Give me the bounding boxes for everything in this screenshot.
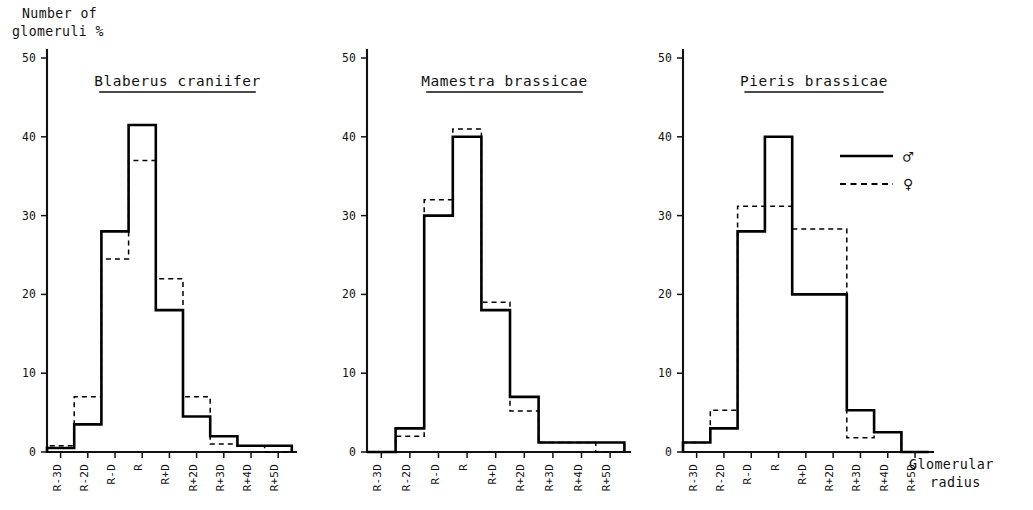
x-tick-label: R [769, 464, 782, 471]
y-tick-label: 20 [658, 287, 672, 301]
y-tick-label: 40 [22, 130, 36, 144]
x-tick-label: R+2D [823, 464, 836, 491]
histogram-series-male [367, 137, 624, 452]
x-tick-label: R+2D [514, 464, 527, 491]
panel-title: Pieris brassicae [740, 73, 888, 89]
x-axis-caption-line2: radius [930, 475, 981, 490]
x-tick-label: R+3D [543, 464, 556, 491]
x-tick-label: R+2D [187, 464, 200, 491]
x-tick-label: R-2D [400, 464, 413, 491]
x-tick-label: R [457, 464, 470, 471]
x-tick-label: R+D [796, 464, 809, 484]
y-tick-label: 50 [22, 51, 36, 65]
x-tick-label: R-3D [51, 464, 64, 491]
x-tick-label: R-2D [78, 464, 91, 491]
x-axis-caption: Glomerular radius [909, 457, 994, 490]
x-tick-label: R-D [429, 464, 442, 484]
x-tick-label: R-3D [371, 464, 384, 491]
histogram-series-female [683, 206, 929, 452]
legend-symbol-female: ♀ [903, 174, 913, 194]
legend: ♂ ♀ [840, 147, 914, 194]
axes [683, 50, 933, 452]
panel-title: Blaberus craniifer [94, 73, 261, 89]
glomeruli-distribution-figure: Number of glomeruli % 01020304050R-3DR-2… [0, 0, 1033, 510]
y-tick-label: 40 [342, 130, 356, 144]
y-tick-label: 0 [665, 445, 672, 459]
x-tick-label: R+3D [850, 464, 863, 491]
y-tick-label: 30 [342, 209, 356, 223]
y-tick-label: 10 [22, 366, 36, 380]
panel-title: Mamestra brassicae [421, 73, 588, 89]
chart-panel-3: 01020304050R-3DR-2DR-DRR+DR+2DR+3DR+4DR+… [658, 50, 933, 491]
y-tick-label: 50 [342, 51, 356, 65]
x-tick-label: R-D [741, 464, 754, 484]
figure-root: Number of glomeruli % 01020304050R-3DR-2… [0, 0, 1033, 510]
x-tick-label: R+3D [214, 464, 227, 491]
x-tick-label: R-3D [687, 464, 700, 491]
y-tick-label: 30 [22, 209, 36, 223]
axes [367, 50, 630, 452]
y-axis-caption: Number of glomeruli % [12, 6, 104, 39]
y-tick-label: 0 [29, 445, 36, 459]
y-axis-caption-line2: glomeruli % [12, 24, 104, 39]
x-tick-label: R-D [105, 464, 118, 484]
x-tick-label: R+D [486, 464, 499, 484]
y-tick-label: 20 [22, 287, 36, 301]
x-tick-label: R+5D [268, 464, 281, 491]
histogram-series-male [683, 137, 929, 452]
x-tick-label: R+5D [600, 464, 613, 491]
y-axis-caption-line1: Number of [22, 6, 97, 21]
panels-group: 01020304050R-3DR-2DR-DRR+DR+2DR+3DR+4DR+… [22, 50, 933, 491]
y-tick-label: 10 [658, 366, 672, 380]
axes [47, 50, 296, 452]
x-tick-label: R+D [159, 464, 172, 484]
x-tick-label: R-2D [714, 464, 727, 491]
histogram-series-male [47, 125, 292, 452]
histogram-series-female [47, 160, 292, 452]
x-tick-label: R [132, 464, 145, 471]
x-tick-label: R+4D [878, 464, 891, 491]
y-tick-label: 20 [342, 287, 356, 301]
chart-panel-2: 01020304050R-3DR-2DR-DRR+DR+2DR+3DR+4DR+… [342, 50, 630, 491]
y-tick-label: 0 [349, 445, 356, 459]
x-tick-label: R+4D [241, 464, 254, 491]
y-tick-label: 30 [658, 209, 672, 223]
x-axis-caption-line1: Glomerular [909, 457, 994, 472]
histogram-series-female [367, 129, 624, 452]
x-tick-label: R+4D [572, 464, 585, 491]
legend-symbol-male: ♂ [903, 147, 914, 167]
chart-panel-1: 01020304050R-3DR-2DR-DRR+DR+2DR+3DR+4DR+… [22, 50, 296, 491]
y-tick-label: 40 [658, 130, 672, 144]
y-tick-label: 10 [342, 366, 356, 380]
y-tick-label: 50 [658, 51, 672, 65]
